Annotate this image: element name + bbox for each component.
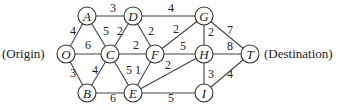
edge-weight-h-t: 8 xyxy=(227,39,233,53)
edge-weight-f-e: 1 xyxy=(135,63,141,77)
node-label: G xyxy=(199,9,209,24)
node-label: H xyxy=(198,47,209,62)
node-t: T xyxy=(241,45,259,63)
node-label: T xyxy=(246,47,254,62)
origin-label: (Origin) xyxy=(2,46,45,61)
edge-weight-a-c: 5 xyxy=(103,24,109,38)
node-a: A xyxy=(78,7,96,25)
destination-label: (Destination) xyxy=(264,46,333,61)
node-o: O xyxy=(57,45,75,63)
edge-weight-c-b: 4 xyxy=(92,63,98,77)
node-label: D xyxy=(127,9,138,24)
node-g: G xyxy=(195,7,213,25)
edge-weight-f-h: 5 xyxy=(180,39,186,53)
node-c: C xyxy=(101,45,119,63)
edge-weight-d-f: 2 xyxy=(148,24,154,38)
node-label: C xyxy=(106,47,115,62)
edge-weight-o-a: 4 xyxy=(70,24,76,38)
edge-weight-b-e: 6 xyxy=(110,91,116,105)
edge-weight-o-b: 3 xyxy=(70,66,76,80)
node-h: H xyxy=(195,45,213,63)
edge-weight-f-g: 2 xyxy=(173,22,179,36)
node-e: E xyxy=(124,84,142,102)
edge-weight-d-c: 2 xyxy=(117,24,123,38)
edge-weight-d-g: 4 xyxy=(168,1,174,15)
node-label: O xyxy=(61,47,71,62)
edge-weight-e-i: 5 xyxy=(168,91,174,105)
node-label: E xyxy=(128,86,137,101)
node-b: B xyxy=(78,84,96,102)
node-label: A xyxy=(82,9,91,24)
edge-weight-g-t: 7 xyxy=(227,23,233,37)
node-label: I xyxy=(201,86,207,101)
node-f: F xyxy=(146,45,164,63)
node-label: B xyxy=(83,86,91,101)
node-label: F xyxy=(150,47,160,62)
node-d: D xyxy=(124,7,142,25)
edge-weight-i-t: 4 xyxy=(227,67,233,81)
node-i: I xyxy=(195,84,213,102)
edge-weight-o-c: 6 xyxy=(85,38,91,52)
edge-weight-a-d: 3 xyxy=(110,1,116,15)
edge-weight-e-h: 2 xyxy=(165,58,171,72)
edge-weight-c-f: 2 xyxy=(133,38,139,52)
edge-weight-c-e: 5 xyxy=(126,63,132,77)
edge-weight-g-h: 2 xyxy=(208,25,214,39)
network-graph: 4633522424516252527834 OABCDEFGHIT (Orig… xyxy=(0,0,339,110)
edge-weight-h-i: 3 xyxy=(208,67,214,81)
